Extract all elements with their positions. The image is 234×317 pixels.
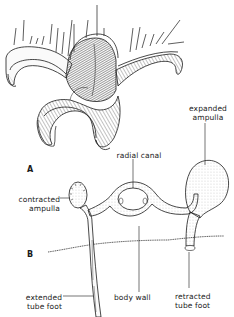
panel-a-drawing	[6, 5, 184, 150]
body-wall-line	[48, 236, 224, 252]
label-expanded-ampulla-line1: expanded	[188, 104, 228, 113]
label-expanded-ampulla-line2: ampulla	[188, 113, 228, 122]
label-extended-tube-foot: extended tube foot	[14, 293, 62, 311]
label-contracted-ampulla-line2: ampulla	[12, 204, 60, 213]
label-radial-canal: radial canal	[112, 151, 166, 160]
label-body-wall: body wall	[114, 293, 151, 302]
tube-foot-diagram: A B expanded ampulla radial canal contra…	[0, 0, 234, 317]
label-retracted-tube-foot-line2: tube foot	[175, 301, 211, 310]
label-extended-tube-foot-line1: extended	[14, 293, 62, 302]
expanded-ampulla-shape	[186, 160, 229, 218]
contracted-ampulla-shape	[69, 182, 87, 208]
label-contracted-ampulla: contracted ampulla	[12, 195, 60, 213]
label-retracted-tube-foot-line1: retracted	[175, 292, 211, 301]
label-retracted-tube-foot: retracted tube foot	[175, 292, 211, 310]
panel-letter-b: B	[27, 250, 33, 259]
label-expanded-ampulla: expanded ampulla	[188, 104, 228, 122]
extended-tube-foot-shape	[80, 205, 101, 317]
label-contracted-ampulla-line1: contracted	[12, 195, 60, 204]
label-extended-tube-foot-line2: tube foot	[14, 302, 62, 311]
retracted-tube-foot-shape	[186, 212, 200, 246]
panel-letter-a: A	[27, 165, 33, 174]
